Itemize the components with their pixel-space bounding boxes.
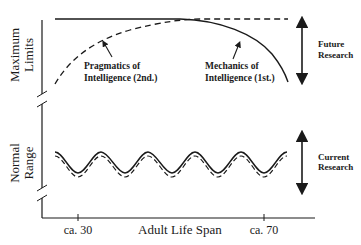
x-tick-label-70: ca. 70 [250,223,279,237]
mechanics-label-line2: Intelligence (1st.) [205,73,275,84]
y-label-maximum: Maximum [7,28,22,82]
y-label-normal: Normal [7,143,22,183]
future-research-label-line1: Future [318,39,344,49]
y-label-normal-range: Normal Range [7,143,36,183]
current-research-label-line1: Current [318,152,349,162]
future-research-label-line2: Research [318,50,353,60]
current-research-label-line2: Research [318,162,353,172]
pragmatics-pointer-arrow [104,43,112,57]
pragmatics-label-line1: Pragmatics of [84,61,141,71]
y-label-limits: Limits [21,38,36,72]
pragmatics-label-line2: Intelligence (2nd.) [84,73,157,84]
y-label-range: Range [21,146,36,179]
y-axis [37,20,47,218]
lifespan-diagram: ca. 30 Adult Life Span ca. 70 Maximum Li… [0,0,361,245]
y-label-maximum-limits: Maximum Limits [7,28,36,82]
normal-range-wave-solid [55,152,287,173]
x-axis: ca. 30 Adult Life Span ca. 70 [42,214,315,237]
x-tick-label-30: ca. 30 [64,223,93,237]
mechanics-pointer-arrow [233,44,239,59]
mechanics-label-line1: Mechanics of [205,61,259,71]
x-axis-label: Adult Life Span [138,222,222,237]
normal-range-wave-dashed [55,156,287,177]
